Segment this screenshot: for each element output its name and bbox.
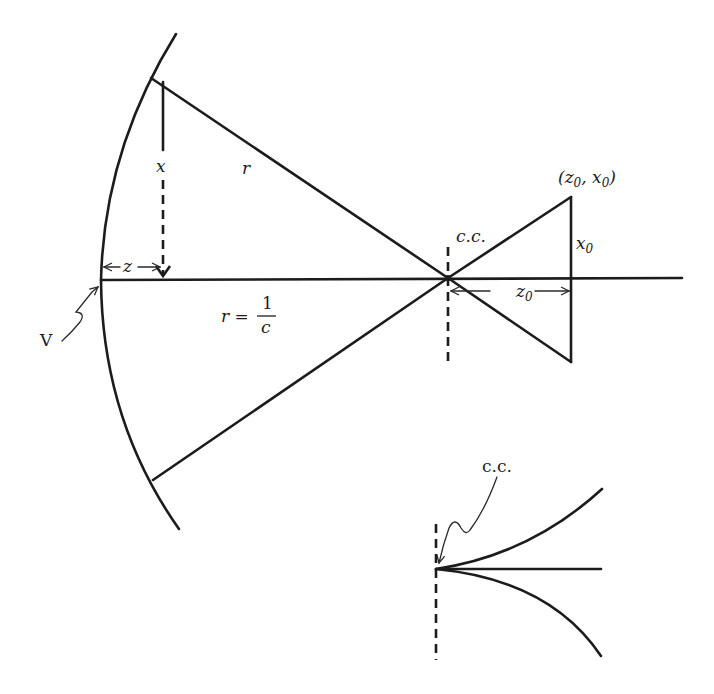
label-x: x (156, 156, 166, 176)
inset-diagram: c.c. (436, 456, 602, 660)
diagram-canvas: x r z r = 1 c V c.c. (z0, x0) x0 z0 c.c. (0, 0, 714, 694)
inset-label-cc: c.c. (482, 456, 512, 476)
label-x0: x0 (576, 233, 594, 256)
label-point: (z0, x0) (558, 167, 616, 190)
vertex-pointer (62, 287, 98, 341)
label-vertex: V (39, 330, 53, 350)
label-z: z (122, 256, 133, 276)
radius-lower (153, 278, 448, 480)
inset-lower-curve (436, 569, 601, 656)
surface-arc (101, 34, 179, 529)
label-frac-den: c (261, 317, 271, 337)
label-r-upper: r (242, 158, 251, 178)
label-cc: c.c. (456, 226, 486, 246)
main-diagram: x r z r = 1 c V c.c. (z0, x0) x0 z0 (39, 34, 682, 529)
radius-upper (151, 78, 448, 278)
cc-point (445, 275, 451, 281)
label-z0: z0 (515, 281, 533, 304)
inset-cc-pointer (439, 477, 497, 563)
label-frac-num: 1 (262, 293, 273, 313)
optical-axis (101, 278, 682, 280)
label-r-equals: r = (221, 306, 249, 326)
